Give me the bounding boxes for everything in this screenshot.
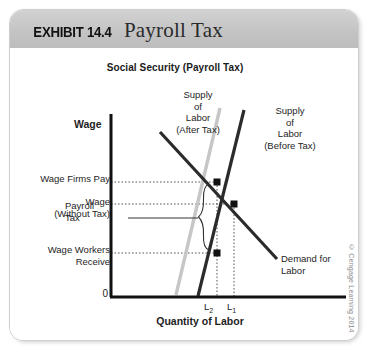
curve-supply-before-tax <box>176 108 220 295</box>
curve-demand-for-labor <box>160 132 277 259</box>
curve-label-supply-after-tax: Supply of Labor (After Tax) <box>164 89 232 135</box>
y-marker-wage-workers-receive: Wage Workers Receive <box>18 244 110 267</box>
y-marker-wage-firms-pay: Wage Firms Pay <box>18 173 110 185</box>
x-tick-l1-sub: 1 <box>232 307 236 314</box>
curve-label-demand-for-labor-line2: Labor <box>281 265 341 277</box>
y-axis-label: Wage <box>74 119 102 131</box>
marker-wage-workers-receive <box>214 250 221 257</box>
annotation-payroll-tax-line1: Payroll <box>65 200 125 212</box>
copyright-credit: © Cengage Learning 2014 <box>348 244 355 333</box>
marker-equilibrium-without-tax <box>231 201 238 208</box>
curve-label-demand-for-labor: Demand for Labor <box>281 253 341 276</box>
exhibit-title: Payroll Tax <box>124 18 223 43</box>
curve-label-supply-after-tax-line4: (After Tax) <box>164 124 232 136</box>
y-marker-wage-workers-receive-line1: Wage Workers <box>18 244 110 256</box>
guide-lines <box>111 182 237 297</box>
x-tick-label-l2: L2 <box>204 301 213 314</box>
curve-label-supply-after-tax-line1: Supply <box>164 89 232 101</box>
curve-label-supply-before-tax-line1: Supply <box>255 105 325 117</box>
marker-wage-firms-pay <box>214 179 221 186</box>
curve-label-supply-after-tax-line3: Labor <box>164 112 232 124</box>
plot-area: Social Security (Payroll Tax) <box>10 48 358 340</box>
x-tick-label-l1: L1 <box>227 301 236 314</box>
x-axis-label: Quantity of Labor <box>90 316 310 328</box>
curve-label-demand-for-labor-line1: Demand for <box>281 253 341 265</box>
x-tick-l2-sub: 2 <box>209 307 213 314</box>
exhibit-header: EXHIBIT 14.4 Payroll Tax <box>10 10 358 48</box>
exhibit-header-inner: EXHIBIT 14.4 Payroll Tax <box>28 18 223 43</box>
curve-label-supply-before-tax-line4: (Before Tax) <box>255 140 325 152</box>
exhibit-card: EXHIBIT 14.4 Payroll Tax Social Security… <box>9 9 359 341</box>
exhibit-figure: EXHIBIT 14.4 Payroll Tax Social Security… <box>0 0 371 355</box>
annotation-payroll-tax-line2: Tax <box>65 212 125 224</box>
curve-label-supply-before-tax: Supply of Labor (Before Tax) <box>255 105 325 151</box>
exhibit-number: EXHIBIT 14.4 <box>33 23 111 40</box>
curve-label-supply-after-tax-line2: of <box>164 101 232 113</box>
annotation-payroll-tax: Payroll Tax <box>65 200 125 223</box>
curve-label-supply-before-tax-line3: Labor <box>255 128 325 140</box>
curve-label-supply-before-tax-line2: of <box>255 117 325 129</box>
axis-origin-label: 0 <box>96 288 108 300</box>
y-marker-wage-workers-receive-line2: Receive <box>18 256 110 268</box>
